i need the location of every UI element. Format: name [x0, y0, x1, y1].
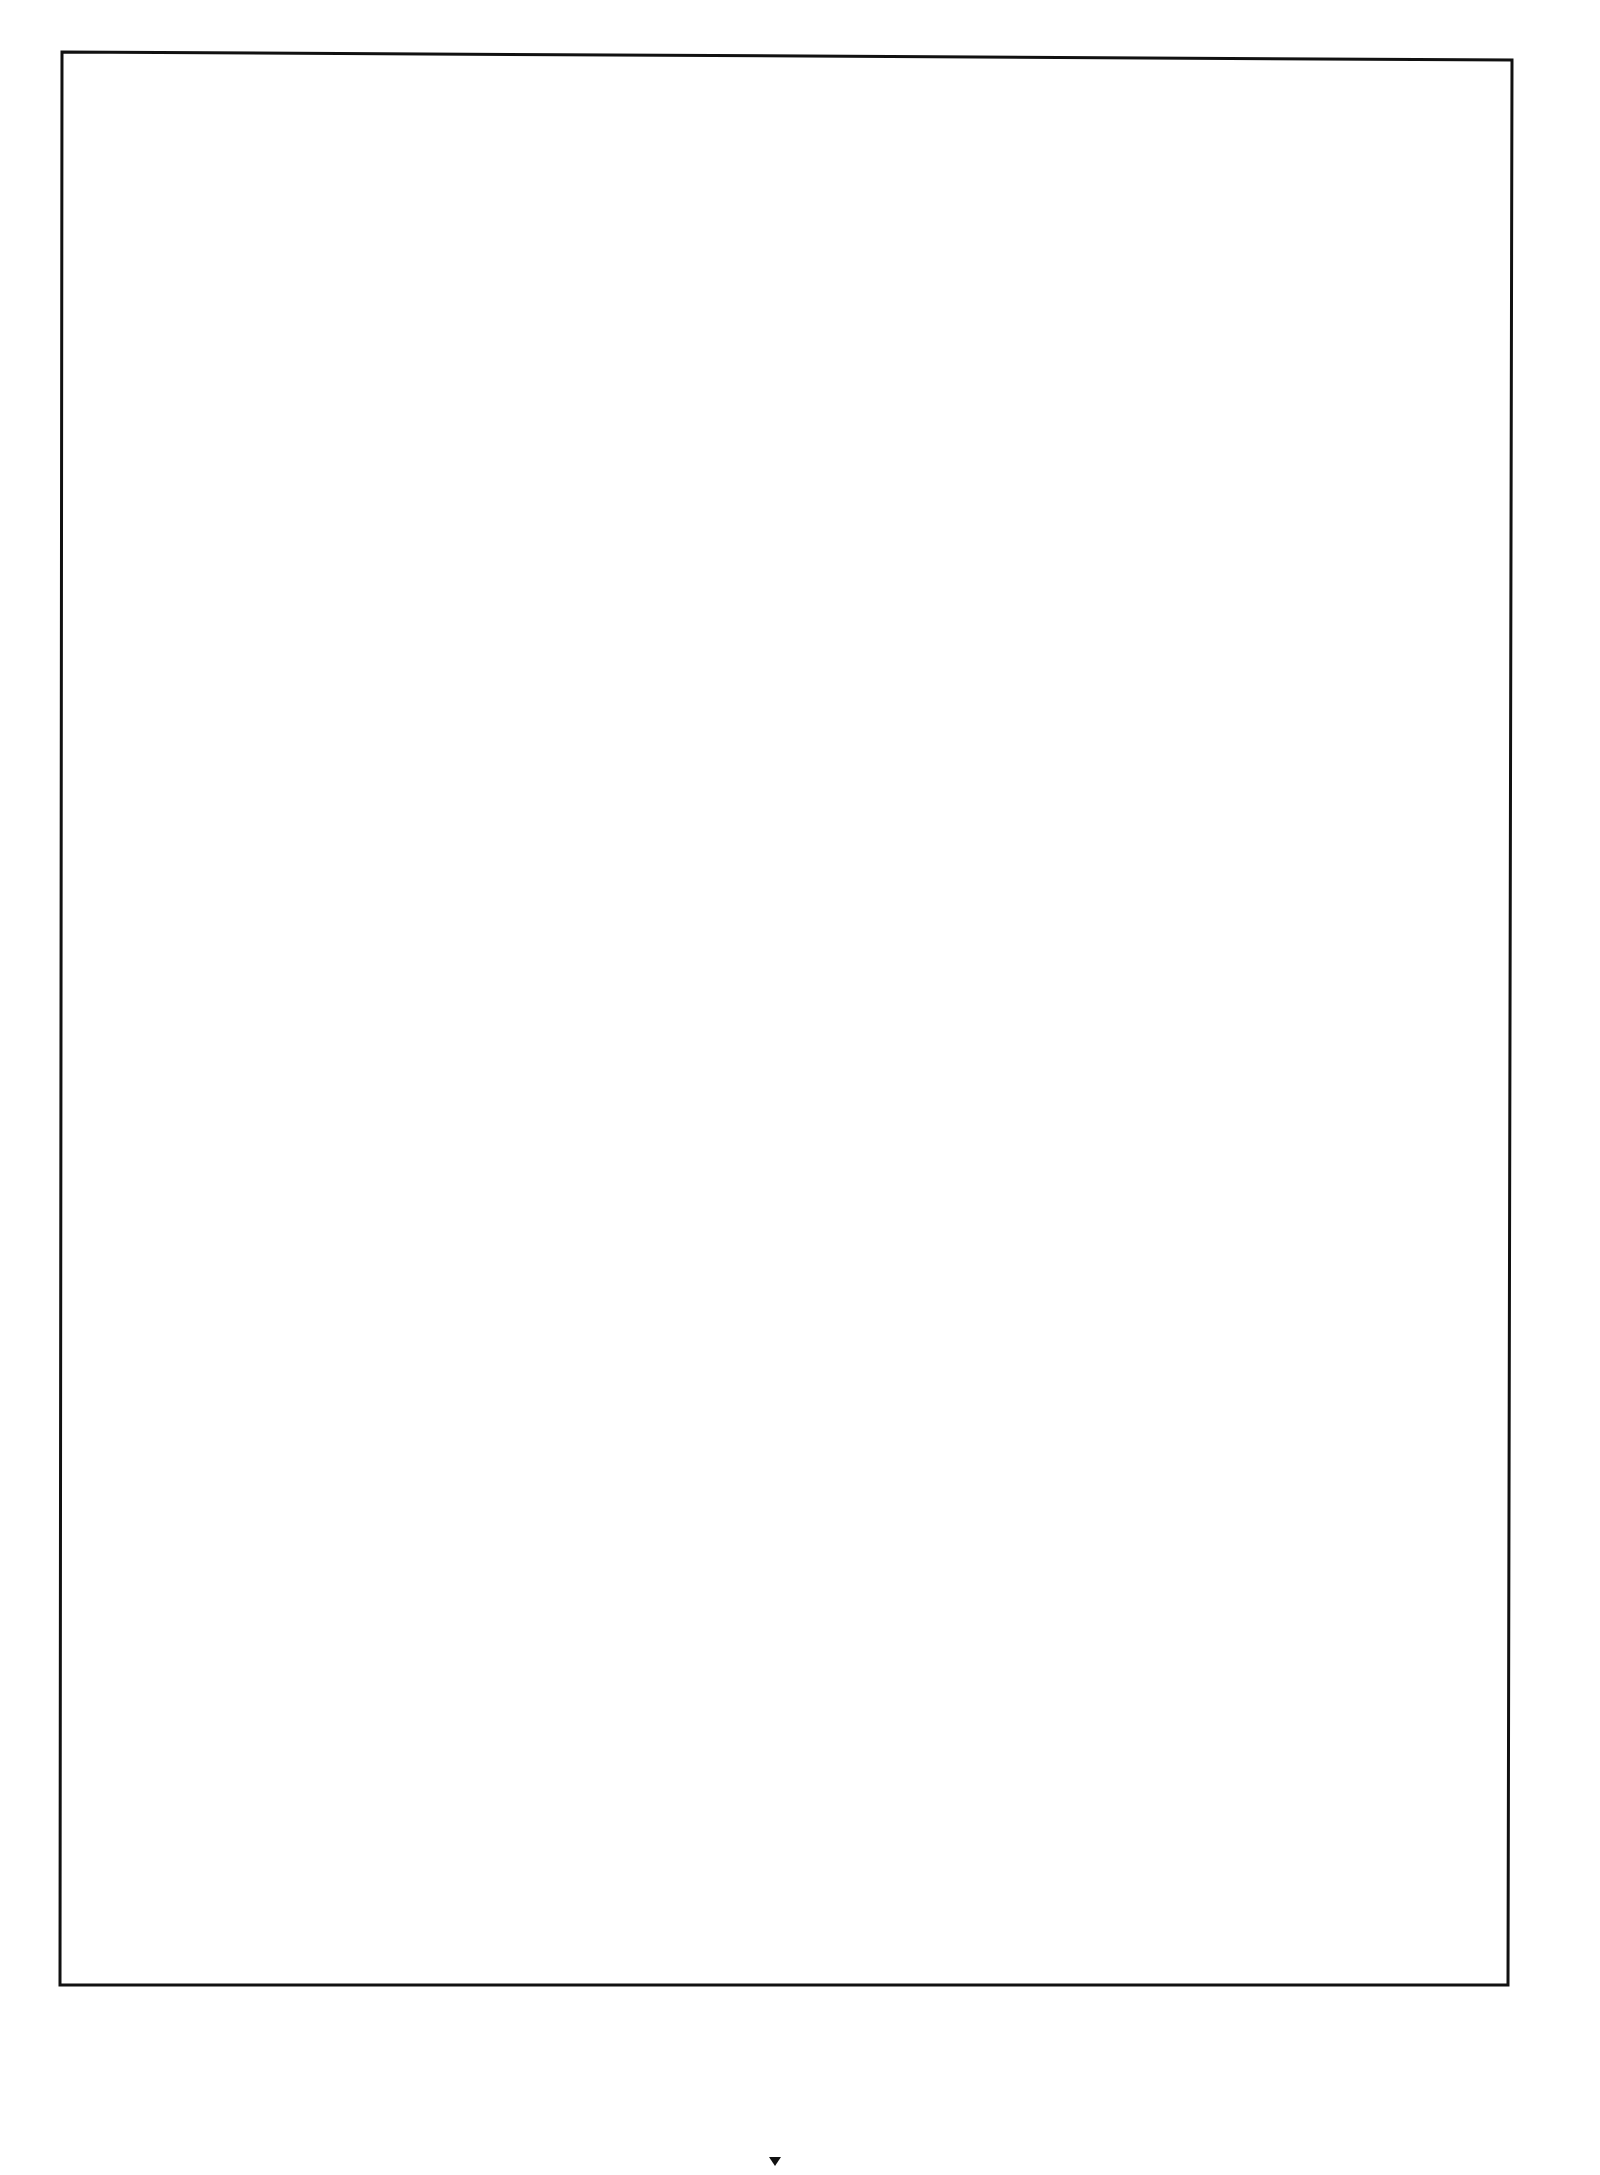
star-atlas-chart [0, 0, 1600, 2175]
continuation-arrow-icon[interactable] [769, 2157, 781, 2166]
page-footer [769, 2157, 781, 2166]
map-frame [60, 52, 1512, 1985]
